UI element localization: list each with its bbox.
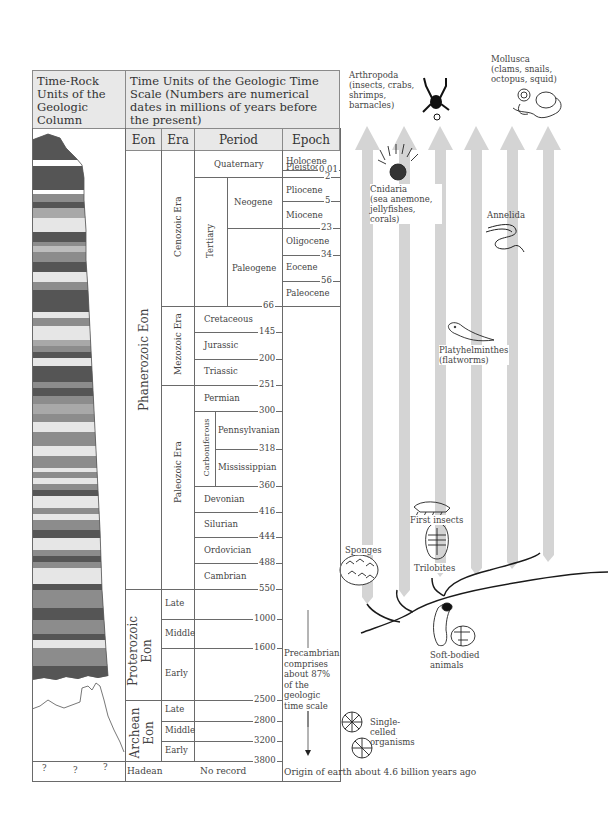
mollusca-name: Mollusca <box>491 54 561 64</box>
date-444: 444 <box>258 532 276 541</box>
date-318: 318 <box>258 444 276 453</box>
table-border-bottom <box>32 781 340 782</box>
rock-units-header: Time-Rock Units of the Geologic Column <box>32 70 126 129</box>
date-550: 550 <box>258 584 276 593</box>
period-carboniferous: Carboniferous <box>202 416 211 480</box>
platyhelminthes-name: Platyhelminthes <box>439 345 509 355</box>
date-251: 251 <box>258 380 276 389</box>
platyhelminthes-desc: (flatworms) <box>439 355 509 365</box>
era-proterozoic-middle: Middle <box>165 628 195 638</box>
column-divider-era <box>194 150 195 762</box>
date-200: 200 <box>258 354 276 363</box>
phylogeny-tree <box>361 553 608 633</box>
sponges-icon <box>340 555 378 585</box>
first-insects-label: First insects <box>410 515 463 525</box>
period-pennsylvanian: Pennsylvanian <box>218 425 280 435</box>
column-divider-eon <box>161 150 162 762</box>
date-2: 2 <box>324 172 331 181</box>
epoch-oligocene: Oligocene <box>286 236 329 246</box>
arthropoda-name: Arthropoda <box>349 70 429 80</box>
eon-archean: Archean Eon <box>128 697 156 769</box>
era-archean-early: Early <box>165 745 188 755</box>
period-triassic: Triassic <box>204 366 238 376</box>
no-record: No record <box>200 766 246 776</box>
tertiary-divider <box>227 177 228 306</box>
eon-hadean: Hadean <box>127 766 162 776</box>
era-cenozoic: Cenozoic Era <box>173 197 183 257</box>
date-23: 23 <box>320 223 333 232</box>
precambrian-arrow-head <box>305 750 311 756</box>
cnidaria-desc: (sea anemone, jellyfishes, corals) <box>370 194 442 224</box>
period-quaternary: Quaternary <box>214 159 263 169</box>
epoch-miocene: Miocene <box>286 210 323 220</box>
date-3800: 3800 <box>253 756 277 765</box>
column-header-period: Period <box>194 128 283 151</box>
soft-bodied-animals-label: Soft-bodied animals <box>430 650 480 670</box>
date-300: 300 <box>258 406 276 415</box>
table-border-right <box>340 128 341 782</box>
question-mark-3: ? <box>103 762 108 772</box>
date-1600: 1600 <box>253 643 277 652</box>
date-2800: 2800 <box>253 716 277 725</box>
column-header-epoch: Epoch <box>282 128 340 151</box>
period-ordovician: Ordovician <box>204 545 251 555</box>
date-3200: 3200 <box>253 736 277 745</box>
sponges-label: Sponges <box>345 545 382 555</box>
origin-of-earth-note: Origin of earth about 4.6 billion years … <box>284 767 610 777</box>
platyhelminthes-label: Platyhelminthes (flatworms) <box>439 345 509 365</box>
mollusca-icon <box>513 89 561 118</box>
era-archean-middle: Middle <box>165 725 195 735</box>
period-tertiary: Tertiary <box>205 211 215 271</box>
era-proterozoic-late: Late <box>165 598 184 608</box>
date-360: 360 <box>258 481 276 490</box>
annelida-label: Annelida <box>487 210 525 220</box>
column-divider-period <box>282 150 283 782</box>
period-paleogene: Paleogene <box>232 263 276 273</box>
date-1000: 1000 <box>253 614 277 623</box>
column-header-eon: Eon <box>125 128 162 151</box>
column-header-era: Era <box>161 128 195 151</box>
date-66: 66 <box>262 301 275 310</box>
annelida-icon <box>486 225 524 253</box>
period-devonian: Devonian <box>204 494 245 504</box>
single-celled-organisms-label: Single-celled organisms <box>370 717 420 747</box>
arthropoda-label: Arthropoda (insects, crabs, shrimps, bar… <box>349 70 429 110</box>
era-archean-late: Late <box>165 704 184 714</box>
eon-proterozoic: Proterozoic Eon <box>126 611 154 691</box>
date-145: 145 <box>258 327 276 336</box>
period-cretaceous: Cretaceous <box>204 314 253 324</box>
epoch-pliocene: Pliocene <box>286 185 323 195</box>
date-2500: 2500 <box>253 695 277 704</box>
arthropoda-desc: (insects, crabs, shrimps, barnacles) <box>349 80 429 110</box>
mollusca-desc: (clams, snails, octopus, squid) <box>491 64 561 84</box>
epoch-eocene: Eocene <box>286 262 318 272</box>
epoch-paleocene: Paleocene <box>286 288 330 298</box>
table-border-left <box>32 128 33 782</box>
mollusca-label: Mollusca (clams, snails, octopus, squid) <box>491 54 561 84</box>
period-jurassic: Jurassic <box>204 340 238 350</box>
trilobites-label: Trilobites <box>414 563 455 573</box>
rock-column <box>32 130 124 752</box>
single-celled-organisms-icon <box>342 712 372 758</box>
period-silurian: Silurian <box>204 519 238 529</box>
cnidaria-name: Cnidaria <box>370 184 442 194</box>
era-paleozoic: Paleozoic Era <box>173 443 183 503</box>
period-cambrian: Cambrian <box>204 571 246 581</box>
precambrian-note: Precambrian comprises about 87% of the g… <box>284 648 334 711</box>
date-488: 488 <box>258 558 276 567</box>
date-34: 34 <box>320 250 333 259</box>
question-mark-1: ? <box>42 763 47 773</box>
soft-bodied-animals-icon <box>434 603 476 646</box>
era-mesozoic: Mezozoic Era <box>173 315 183 375</box>
date-5: 5 <box>324 196 331 205</box>
eon-phanerozoic: Phanerozoic Eon <box>137 323 151 411</box>
date-416: 416 <box>258 507 276 516</box>
date-56: 56 <box>320 276 333 285</box>
period-neogene: Neogene <box>234 197 273 207</box>
era-proterozoic-early: Early <box>165 668 188 678</box>
period-permian: Permian <box>204 393 240 403</box>
time-units-header: Time Units of the Geologic Time Scale (N… <box>125 70 340 129</box>
question-mark-2: ? <box>73 765 78 775</box>
period-mississippian: Mississippian <box>218 462 276 472</box>
cnidaria-label: Cnidaria (sea anemone, jellyfishes, cora… <box>370 184 442 224</box>
